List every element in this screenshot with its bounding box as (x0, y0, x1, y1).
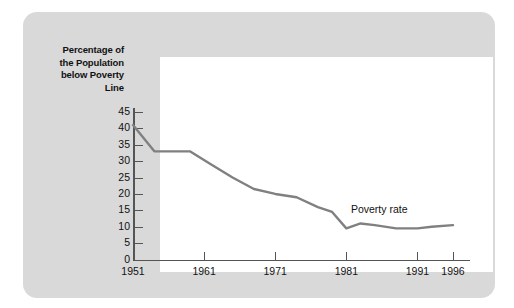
x-tick-label: 1971 (253, 265, 297, 277)
y-axis-title: Percentage of the Population below Pover… (24, 44, 124, 94)
y-axis-title-line-1: Percentage of (24, 44, 124, 57)
x-tick-mark (453, 252, 454, 260)
y-tick-label: 0 (104, 253, 130, 265)
y-tick-label: 15 (104, 203, 130, 215)
y-axis-title-line-3: below Poverty (24, 69, 124, 82)
y-tick-mark (134, 210, 143, 211)
x-tick-mark (275, 252, 276, 260)
x-tick-mark (346, 252, 347, 260)
y-tick-mark (134, 243, 143, 244)
y-tick-mark (134, 112, 143, 113)
y-tick-label: 20 (104, 187, 130, 199)
y-tick-mark (134, 145, 143, 146)
y-tick-label: 5 (104, 236, 130, 248)
x-tick-label: 1996 (431, 265, 475, 277)
y-tick-mark (134, 128, 143, 129)
y-tick-label: 45 (104, 105, 130, 117)
y-tick-mark (134, 161, 143, 162)
y-tick-label: 40 (104, 121, 130, 133)
x-tick-label: 1981 (324, 265, 368, 277)
y-tick-label: 10 (104, 220, 130, 232)
x-tick-label: 1961 (182, 265, 226, 277)
x-tick-mark (417, 252, 418, 260)
y-tick-label: 35 (104, 138, 130, 150)
x-tick-mark (204, 252, 205, 260)
y-tick-label: 25 (104, 171, 130, 183)
y-axis-title-line-4: Line (24, 82, 124, 95)
poverty-rate-annotation: Poverty rate (351, 203, 408, 215)
y-tick-mark (134, 227, 143, 228)
y-tick-mark (134, 194, 143, 195)
y-axis-line (133, 108, 135, 261)
y-tick-label: 30 (104, 154, 130, 166)
x-tick-mark (133, 252, 134, 260)
x-tick-label: 1951 (111, 265, 155, 277)
x-axis-line (133, 260, 470, 262)
plot-area (160, 57, 493, 272)
y-tick-mark (134, 178, 143, 179)
y-axis-title-line-2: the Population (24, 57, 124, 70)
